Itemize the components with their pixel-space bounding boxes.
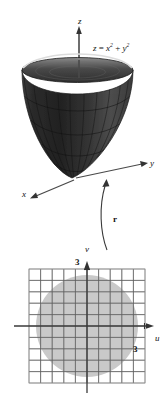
r-vector-label: r [113,215,117,224]
z-axis-label: z [78,17,82,26]
r-vector-arrow [101,179,109,250]
v-axis-label: v [85,245,89,254]
uv-plane-group [14,261,154,393]
paraboloid-rim [22,54,133,83]
x-axis [30,180,74,199]
v-axis-tick-label: 3 [75,258,80,267]
equation-y-exponent: 2 [126,42,129,48]
figure-canvas [0,0,167,412]
u-axis-label: u [155,334,160,343]
y-axis-label: y [150,159,154,168]
equation-equals: = [97,43,107,53]
surface-equation-label: z = x2 + y2 [93,44,129,53]
paraboloid-surface [22,70,133,178]
x-axis-label: x [22,190,26,199]
u-axis-tick-label: 3 [133,345,138,354]
math-figure: z z = x2 + y2 y x r v u 3 3 [0,0,167,412]
